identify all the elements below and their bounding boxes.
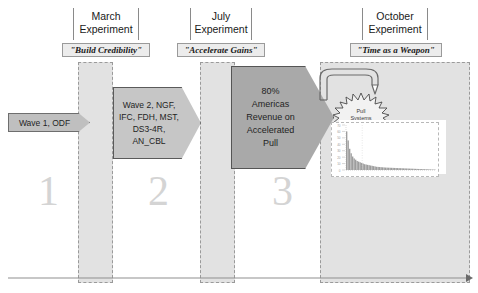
- phase-theme-july: "Accelerate Gains": [177, 43, 265, 57]
- phase-header-march: March Experiment: [73, 8, 139, 40]
- stage-number-3: 3: [272, 170, 293, 212]
- phase-theme-october: "Time as a Weapon": [350, 43, 442, 57]
- svg-text:60: 60: [337, 130, 341, 134]
- chevron-wave-2-line3: DS3-4R,: [119, 123, 179, 135]
- inset-chart-plot: 706050403020100: [337, 124, 436, 173]
- phase-header-october-line2: Experiment: [363, 23, 427, 36]
- svg-text:20: 20: [337, 156, 341, 160]
- phase-header-october-line1: October: [363, 10, 427, 23]
- chevron-americas-line2: Americas: [246, 98, 295, 111]
- phase-header-october: October Experiment: [362, 8, 428, 40]
- phase-header-july: July Experiment: [190, 8, 252, 40]
- chevron-wave-2-line2: IFC, FDH, MST,: [119, 111, 179, 123]
- chevron-wave-1-label: Wave 1, ODF: [19, 118, 70, 128]
- chevron-americas-line1: 80%: [246, 85, 295, 98]
- starburst-label-line1: Pull: [329, 108, 393, 115]
- svg-text:10: 10: [337, 162, 341, 166]
- phase-header-march-line1: March: [74, 10, 138, 23]
- chevron-wave-1: Wave 1, ODF: [8, 113, 90, 132]
- phase-band-july: [200, 62, 235, 283]
- inset-chart: 706050403020100: [331, 122, 439, 177]
- stage-number-2: 2: [148, 170, 169, 212]
- stage-number-1: 1: [38, 170, 59, 212]
- chevron-wave-2: Wave 2, NGF, IFC, FDH, MST, DS3-4R, AN_C…: [113, 87, 201, 159]
- svg-text:0: 0: [339, 169, 341, 173]
- phase-header-july-line1: July: [191, 10, 251, 23]
- chevron-americas-line3: Revenue on: [246, 111, 295, 124]
- svg-text:40: 40: [337, 143, 341, 147]
- chevron-wave-2-line1: Wave 2, NGF,: [119, 99, 179, 111]
- svg-text:70: 70: [337, 124, 341, 128]
- diagram-canvas: 1 2 3 March Experiment "Build Credibilit…: [0, 0, 478, 293]
- chevron-americas-line4: Accelerated: [246, 124, 295, 137]
- phase-header-july-line2: Experiment: [191, 23, 251, 36]
- phase-header-march-line2: Experiment: [74, 23, 138, 36]
- chevron-americas-line5: Pull: [246, 137, 295, 150]
- svg-text:30: 30: [337, 149, 341, 153]
- chevron-wave-2-line4: AN_CBL: [119, 135, 179, 147]
- svg-text:50: 50: [337, 136, 341, 140]
- phase-theme-march: "Build Credibility": [62, 43, 150, 57]
- phase-band-march: [78, 62, 113, 283]
- timeline-baseline-arrow: [8, 270, 473, 286]
